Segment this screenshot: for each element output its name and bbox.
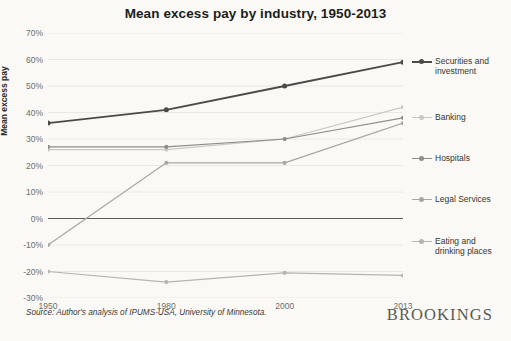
data-point	[48, 269, 50, 273]
legend-label: Legal Services	[435, 194, 491, 204]
legend-marker-icon	[412, 57, 432, 66]
data-point	[401, 121, 403, 125]
legend-marker-icon	[412, 195, 432, 204]
source-note: Source: Author's analysis of IPUMS-USA, …	[26, 308, 267, 317]
brookings-logo: BROOKINGS	[387, 305, 493, 325]
data-point	[164, 280, 168, 284]
data-point	[401, 273, 403, 277]
chart-figure: Mean excess pay by industry, 1950-2013 7…	[0, 0, 511, 341]
data-point	[282, 84, 287, 89]
legend-label: Securities and investment	[435, 56, 505, 76]
chart-title: Mean excess pay by industry, 1950-2013	[0, 6, 511, 21]
data-point	[48, 145, 50, 149]
legend-item[interactable]: Securities and investment	[412, 56, 505, 76]
y-axis-tick-label: 50%	[26, 81, 43, 91]
y-axis-tick-label: 40%	[26, 108, 43, 118]
y-axis-tick-label: 60%	[26, 55, 43, 65]
data-point	[401, 60, 404, 65]
data-point	[401, 105, 403, 109]
x-axis-tick-label: 2000	[275, 301, 294, 311]
data-point	[48, 121, 51, 126]
y-axis-tick-label: 30%	[26, 134, 43, 144]
y-axis-title: Mean excess pay	[0, 46, 9, 156]
legend-label: Hospitals	[435, 153, 470, 163]
series-line	[48, 62, 403, 123]
legend-item[interactable]: Hospitals	[412, 153, 470, 163]
y-axis-tick-label: 0%	[31, 214, 43, 224]
plot-area: 70%60%50%40%30%20%10%0%-10%-20%-30%19501…	[48, 33, 403, 298]
y-axis-tick-label: -20%	[23, 267, 43, 277]
y-axis-tick-label: -10%	[23, 240, 43, 250]
y-axis-tick-label: 70%	[26, 28, 43, 38]
legend-marker-icon	[412, 113, 432, 122]
legend-label: Eating and drinking places	[435, 236, 505, 256]
data-point	[164, 161, 168, 165]
series-line	[48, 123, 403, 245]
data-point	[164, 107, 169, 112]
data-point	[283, 137, 287, 141]
legend-label: Banking	[435, 112, 466, 122]
data-point	[401, 116, 403, 120]
legend-marker-icon	[412, 154, 432, 163]
series-line	[48, 118, 403, 147]
y-axis-tick-label: 10%	[26, 187, 43, 197]
legend-marker-icon	[412, 237, 432, 246]
legend-item[interactable]: Banking	[412, 112, 466, 122]
legend-item[interactable]: Eating and drinking places	[412, 236, 505, 256]
y-axis-tick-label: 20%	[26, 161, 43, 171]
chart-canvas	[48, 33, 403, 298]
data-point	[164, 145, 168, 149]
data-point	[283, 161, 287, 165]
data-point	[283, 271, 287, 275]
legend-item[interactable]: Legal Services	[412, 194, 491, 204]
series-line	[48, 272, 403, 283]
